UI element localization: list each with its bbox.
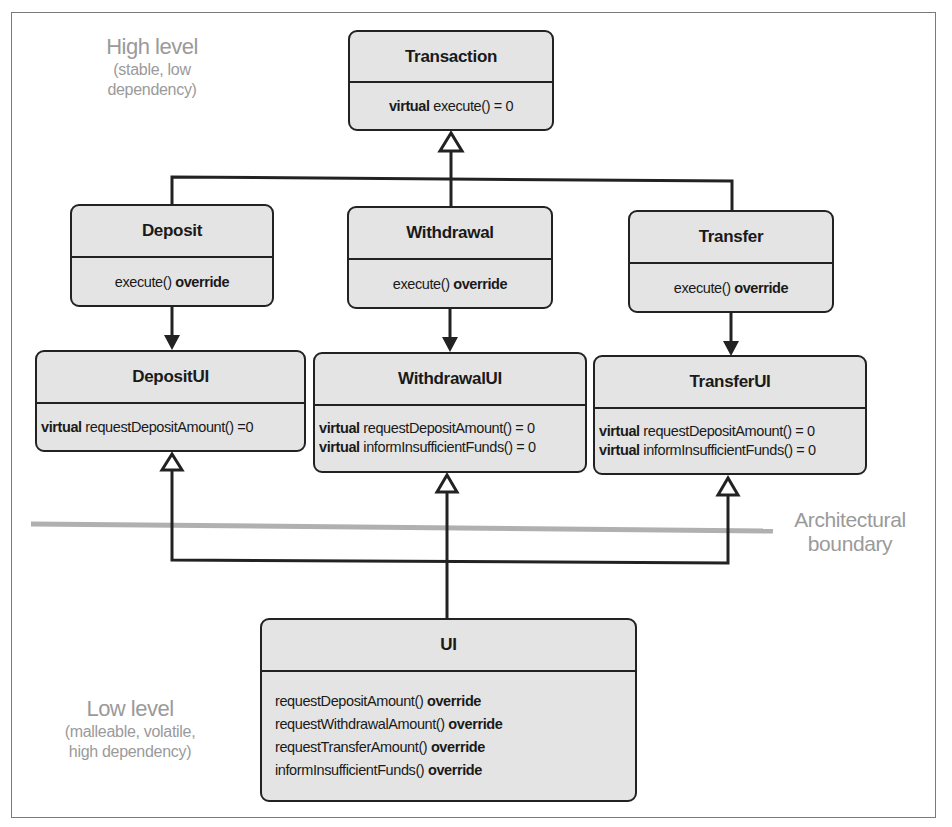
- architectural-boundary-label: Architectural boundary: [775, 508, 925, 556]
- class-name: Deposit: [72, 206, 272, 258]
- member: execute() override: [115, 273, 230, 292]
- member: virtual requestDepositAmount() =0: [41, 418, 253, 437]
- member: requestWithdrawalAmount() override: [275, 713, 502, 736]
- boundary-line1: Architectural: [775, 508, 925, 532]
- class-members: requestDepositAmount() override requestW…: [262, 672, 635, 800]
- member: virtual informInsufficientFunds() = 0: [319, 438, 536, 457]
- class-transfer-ui: TransferUI virtual requestDepositAmount(…: [593, 355, 867, 475]
- class-name: Withdrawal: [349, 208, 551, 260]
- member: requestDepositAmount() override: [275, 690, 481, 713]
- member: virtual execute() = 0: [389, 97, 513, 116]
- architectural-boundary-line: [31, 524, 773, 531]
- class-members: virtual requestDepositAmount() =0: [37, 404, 304, 451]
- member: requestTransferAmount() override: [275, 736, 485, 759]
- class-ui: UI requestDepositAmount() override reque…: [260, 618, 637, 802]
- member: virtual requestDepositAmount() = 0: [319, 419, 535, 438]
- inheritance-arrow-icon: [440, 133, 462, 151]
- class-withdrawal-ui: WithdrawalUI virtual requestDepositAmoun…: [313, 352, 587, 473]
- class-members: virtual requestDepositAmount() = 0 virtu…: [315, 406, 585, 470]
- class-deposit-ui: DepositUI virtual requestDepositAmount()…: [35, 350, 306, 452]
- high-level-line1: (stable, low: [72, 60, 232, 80]
- class-members: virtual requestDepositAmount() = 0 virtu…: [595, 409, 865, 472]
- high-level-line2: dependency): [72, 80, 232, 100]
- inheritance-arrow-icon: [437, 475, 457, 492]
- member: informInsufficientFunds() override: [275, 759, 482, 782]
- low-level-line2: high dependency): [40, 742, 220, 762]
- class-transfer: Transfer execute() override: [628, 210, 834, 313]
- class-members: virtual execute() = 0: [350, 83, 552, 130]
- class-name: Transaction: [350, 32, 552, 83]
- dependency-arrow-icon: [442, 337, 458, 352]
- class-withdrawal: Withdrawal execute() override: [347, 206, 553, 309]
- class-name: WithdrawalUI: [315, 354, 585, 406]
- low-level-title: Low level: [40, 696, 220, 722]
- dependency-arrow-icon: [723, 341, 739, 356]
- inheritance-arrow-icon: [718, 478, 738, 495]
- high-level-title: High level: [72, 34, 232, 60]
- class-deposit: Deposit execute() override: [70, 204, 274, 307]
- class-name: UI: [262, 620, 635, 672]
- high-level-annotation: High level (stable, low dependency): [72, 34, 232, 100]
- low-level-line1: (malleable, volatile,: [40, 722, 220, 742]
- boundary-line2: boundary: [775, 532, 925, 556]
- member: execute() override: [393, 275, 508, 294]
- class-transaction: Transaction virtual execute() = 0: [348, 30, 554, 131]
- class-name: Transfer: [630, 212, 832, 264]
- dependency-arrow-icon: [164, 335, 180, 350]
- class-members: execute() override: [72, 258, 272, 306]
- class-members: execute() override: [349, 260, 551, 308]
- low-level-annotation: Low level (malleable, volatile, high dep…: [40, 696, 220, 762]
- class-name: TransferUI: [595, 357, 865, 409]
- member: virtual informInsufficientFunds() = 0: [599, 441, 816, 460]
- class-name: DepositUI: [37, 352, 304, 404]
- member: virtual requestDepositAmount() = 0: [599, 422, 815, 441]
- inheritance-arrow-icon: [162, 454, 182, 470]
- class-members: execute() override: [630, 264, 832, 312]
- member: execute() override: [674, 279, 789, 298]
